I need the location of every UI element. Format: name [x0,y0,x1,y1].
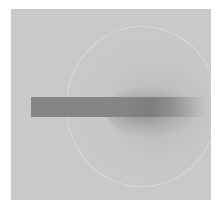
beamstop-bar [31,97,206,117]
image-frame [11,9,211,200]
